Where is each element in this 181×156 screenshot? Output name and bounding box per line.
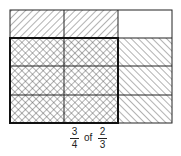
- fraction-three-quarters: 3 4: [70, 127, 79, 150]
- three-quarters-region: [10, 38, 172, 123]
- fraction-two-thirds: 2 3: [98, 127, 107, 150]
- numerator: 2: [100, 127, 106, 137]
- denominator: 4: [72, 140, 78, 150]
- of-label: of: [84, 132, 92, 143]
- numerator: 3: [72, 127, 78, 137]
- denominator: 3: [100, 140, 106, 150]
